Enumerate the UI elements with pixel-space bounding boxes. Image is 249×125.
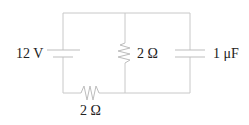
circuit-diagram — [0, 0, 249, 125]
resistor-middle-label: 2 Ω — [137, 47, 158, 61]
resistor-bottom-symbol — [81, 86, 99, 100]
battery-label: 12 V — [16, 47, 43, 61]
resistor-middle-symbol — [118, 43, 130, 63]
resistor-bottom-label: 2 Ω — [80, 104, 101, 118]
capacitor-label: 1 μF — [213, 47, 239, 61]
capacitor-symbol — [175, 50, 205, 57]
battery-symbol — [47, 50, 80, 57]
